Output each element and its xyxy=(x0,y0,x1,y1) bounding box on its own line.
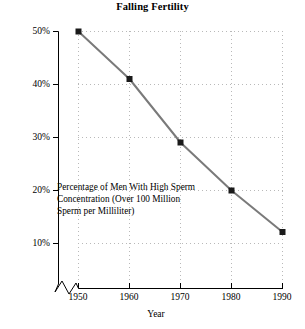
data-point-1980 xyxy=(229,188,235,194)
plot-area xyxy=(0,0,305,329)
ytick-label-10: 10% xyxy=(10,239,50,249)
xtick-label-1950: 1950 xyxy=(56,293,100,303)
chart-annotation: Percentage of Men With High Sperm Concen… xyxy=(57,181,229,218)
annotation-line-3: Sperm per Milliliter) xyxy=(57,205,229,217)
ytick-label-50: 50% xyxy=(10,27,50,37)
chart-container: Falling Fertility xyxy=(0,0,305,329)
xtick-label-1990: 1990 xyxy=(260,293,304,303)
data-point-1990 xyxy=(280,229,286,235)
xtick-label-1960: 1960 xyxy=(107,293,151,303)
annotation-line-2: Concentration (Over 100 Million xyxy=(57,193,229,205)
data-point-1960 xyxy=(127,76,133,82)
y-axis-spine xyxy=(53,32,59,277)
ytick-label-30: 30% xyxy=(10,133,50,143)
xtick-label-1970: 1970 xyxy=(158,293,202,303)
ytick-label-40: 40% xyxy=(10,80,50,90)
x-axis-spine xyxy=(55,276,283,294)
data-point-1950 xyxy=(76,29,82,35)
gridlines-vertical xyxy=(79,31,283,289)
data-point-1970 xyxy=(178,140,184,146)
ytick-label-20: 20% xyxy=(10,186,50,196)
x-axis-label: Year xyxy=(133,309,179,319)
annotation-line-1: Percentage of Men With High Sperm xyxy=(57,181,229,193)
xtick-label-1980: 1980 xyxy=(209,293,253,303)
